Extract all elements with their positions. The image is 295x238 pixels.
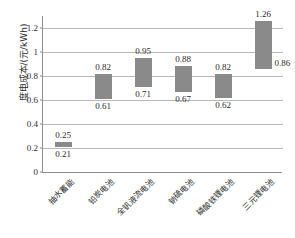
bar-value-label-low: 0.61 [95, 101, 111, 111]
bar-value-label-high: 0.82 [215, 62, 231, 72]
gridline [43, 28, 283, 29]
bar [175, 66, 192, 91]
x-axis-category-label: 铅炭电池 [85, 176, 115, 206]
gridline [43, 148, 283, 149]
bar-value-label-low: 0.86 [275, 58, 291, 68]
y-axis-tick-labels: 00.20.40.60.811.2 [18, 16, 38, 172]
bar-value-label-low: 0.67 [175, 94, 191, 104]
x-axis-category-labels: 抽水蓄能铅炭电池全钒液流电池钠硫电池磷酸铁锂电池三元锂电池 [42, 174, 282, 236]
x-axis-category-label: 三元锂电池 [240, 176, 276, 212]
y-axis-tick-label: 0.6 [27, 95, 38, 105]
bar-value-label-high: 0.25 [55, 130, 71, 140]
bar-value-label-high: 0.82 [95, 62, 111, 72]
chart-container: 度电成本/(元/kWh) 00.20.40.60.811.2 0.250.210… [0, 0, 295, 238]
bar [95, 74, 112, 99]
bar-value-label-low: 0.62 [215, 100, 231, 110]
y-axis-tick-label: 0.8 [27, 71, 38, 81]
gridline [43, 100, 283, 101]
bar [215, 74, 232, 98]
gridline [43, 76, 283, 77]
gridline [43, 124, 283, 125]
y-axis-tick-label: 0.2 [27, 143, 38, 153]
gridline [43, 52, 283, 53]
bar [135, 58, 152, 87]
bar-value-label-low: 0.71 [135, 89, 151, 99]
bar-value-label-high: 0.88 [175, 54, 191, 64]
y-axis-tick-label: 0 [34, 167, 39, 177]
bar-value-label-high: 1.26 [255, 9, 271, 19]
x-axis-category-label: 全钒液流电池 [114, 176, 156, 218]
bar [255, 21, 272, 69]
x-axis-category-label: 钠硫电池 [165, 176, 195, 206]
bar-value-label-low: 0.21 [55, 149, 71, 159]
y-axis-tick-label: 1 [34, 47, 39, 57]
y-axis-tick-label: 1.2 [27, 23, 38, 33]
bar [55, 142, 72, 147]
x-axis-line [42, 172, 282, 173]
y-axis-tick-label: 0.4 [27, 119, 38, 129]
x-axis-category-label: 抽水蓄能 [45, 176, 75, 206]
bar-value-label-high: 0.95 [135, 46, 151, 56]
plot-area: 0.250.210.820.610.950.710.880.670.820.62… [42, 16, 283, 172]
x-axis-category-label: 磷酸铁锂电池 [194, 176, 236, 218]
